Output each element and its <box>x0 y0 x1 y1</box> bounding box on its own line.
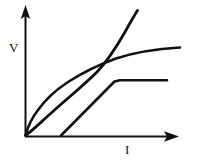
x-axis <box>25 131 179 141</box>
curve-piecewise-linear <box>61 80 167 135</box>
y-axis-label: V <box>9 41 18 54</box>
x-axis-label: I <box>125 143 129 156</box>
y-axis <box>21 5 30 136</box>
curve-saturating <box>26 48 181 136</box>
vi-characteristic-plot <box>0 0 198 162</box>
figure-container: V I <box>0 0 198 162</box>
